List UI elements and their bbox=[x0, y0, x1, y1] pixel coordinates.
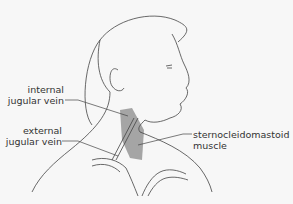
label-line-1: internal bbox=[6, 84, 64, 95]
label-sternocleidomastoid-muscle: sternocleidomastoid muscle bbox=[193, 129, 290, 151]
head-outline bbox=[85, 16, 187, 125]
eye bbox=[166, 65, 172, 68]
leader-scm bbox=[138, 134, 183, 145]
leader-external-2 bbox=[78, 141, 118, 156]
label-line-2: muscle bbox=[193, 140, 290, 151]
label-internal-jugular-vein: internal jugular vein bbox=[6, 84, 64, 106]
ear bbox=[110, 69, 124, 91]
label-line-1: external bbox=[4, 125, 62, 136]
sternocleidomastoid-shape bbox=[120, 108, 144, 160]
leader-internal-2 bbox=[78, 100, 128, 116]
neck-anatomy-diagram: internal jugular vein external jugular v… bbox=[0, 0, 293, 204]
label-line-2: jugular vein bbox=[4, 136, 62, 147]
clavicle-left-2 bbox=[92, 164, 120, 172]
face-profile bbox=[139, 34, 189, 132]
clavicle-right bbox=[142, 170, 186, 196]
label-external-jugular-vein: external jugular vein bbox=[4, 125, 62, 147]
label-line-1: sternocleidomastoid bbox=[193, 129, 290, 140]
clavicle-left bbox=[92, 158, 138, 196]
label-line-2: jugular vein bbox=[6, 95, 64, 106]
clavicle-right-2 bbox=[148, 177, 188, 196]
